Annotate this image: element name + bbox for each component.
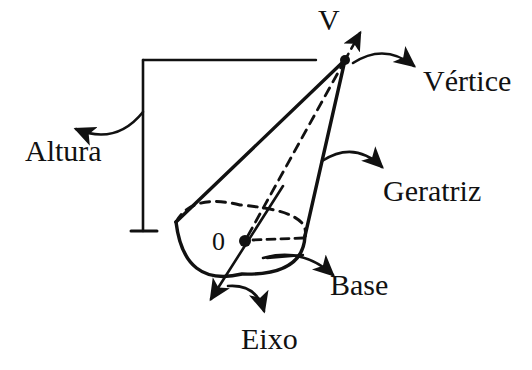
cone-radius-dashed-line [253, 238, 303, 240]
cone-diagram-figure: V 0 Altura Vértice Geratriz Base Eixo [0, 0, 532, 370]
altura-pointer-arrow [76, 112, 143, 135]
base-label: Base [330, 268, 388, 301]
diagram-labels: V 0 Altura Vértice Geratriz Base Eixo [25, 3, 511, 355]
altura-label: Altura [25, 134, 102, 167]
cone-height-dashed-line [245, 60, 345, 241]
cone-diagram-canvas: V 0 Altura Vértice Geratriz Base Eixo [0, 0, 532, 370]
cone-base-front-arc [176, 222, 305, 276]
eixo-label: Eixo [241, 322, 298, 355]
geratriz-pointer-arrow [322, 152, 382, 167]
vertex-point-label: V [318, 3, 340, 36]
vertice-label: Vértice [423, 64, 511, 97]
vertice-pointer-arrow [353, 53, 414, 66]
geratriz-label: Geratriz [383, 174, 481, 207]
cone-right-slant-geratriz-line [305, 60, 345, 236]
cone-body [176, 55, 350, 276]
center-point-label: 0 [212, 227, 225, 256]
cone-base-hidden-arc [176, 201, 305, 236]
cone-left-slant-line [176, 60, 345, 222]
cone-axis-dashed-extension-arrow [345, 33, 360, 60]
altura-bracket [131, 60, 316, 231]
eixo-pointer-arrow [228, 286, 264, 311]
